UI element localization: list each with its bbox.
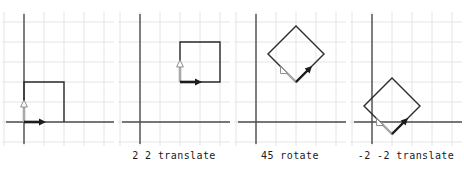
axes — [6, 14, 114, 144]
panel-translate-caption: 2 2 translate — [116, 150, 232, 161]
x-axis-arrow — [180, 79, 202, 86]
panel-translate-canvas — [116, 0, 232, 148]
grid-lines — [350, 12, 462, 146]
transformation-figure: 2 2 translate — [0, 0, 464, 179]
panel-original-canvas — [0, 0, 116, 148]
panel-rotate-45: 45 rotate — [232, 0, 348, 179]
axes — [354, 14, 462, 144]
y-axis-arrow — [21, 100, 28, 122]
y-axis-arrow — [177, 60, 184, 82]
grid-lines — [2, 12, 114, 146]
axes — [122, 14, 230, 144]
panel-translate-minus2-minus2: -2 -2 translate — [348, 0, 464, 179]
grid-lines — [118, 12, 230, 146]
x-axis-arrow — [24, 119, 46, 126]
panel-translate-neg-caption: -2 -2 translate — [348, 150, 464, 161]
y-axis-arrow — [281, 67, 297, 83]
x-axis-arrow — [392, 118, 408, 134]
panel-original — [0, 0, 116, 179]
panel-rotate-canvas — [232, 0, 348, 148]
panel-translate-2-2: 2 2 translate — [116, 0, 232, 179]
x-axis-arrow — [296, 66, 312, 82]
panel-rotate-caption: 45 rotate — [232, 150, 348, 161]
panel-translate-neg-canvas — [348, 0, 464, 148]
y-axis-arrow — [377, 119, 393, 135]
